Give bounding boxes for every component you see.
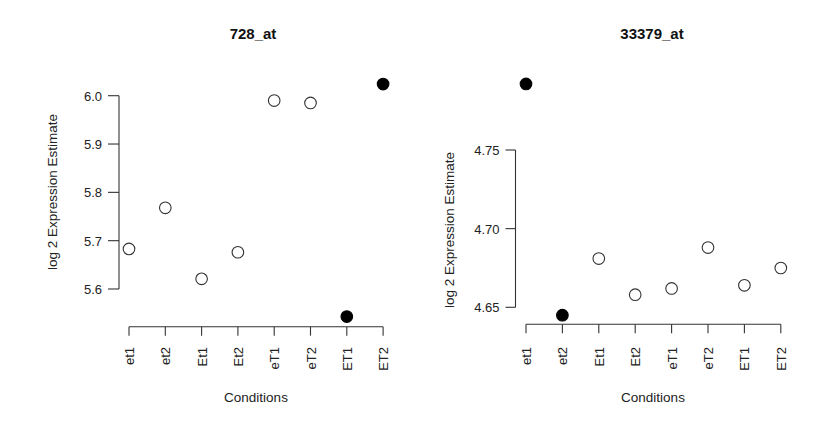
x-axis-label: Conditions xyxy=(224,390,288,405)
filled-point-marker xyxy=(377,78,389,90)
panel-728-at: 728_at log 2 Expression Estimate Conditi… xyxy=(45,25,391,405)
open-point-marker xyxy=(666,283,678,295)
y-tick-label: 4.65 xyxy=(474,300,499,315)
open-point-marker xyxy=(123,243,135,255)
open-point-marker xyxy=(196,273,208,285)
y-tick-label: 5.9 xyxy=(84,137,102,152)
open-point-marker xyxy=(629,289,641,301)
x-tick-label: Et1 xyxy=(195,347,210,367)
filled-point-marker xyxy=(341,311,353,323)
x-axis: et1et2Et1Et2eT1eT2ET1ET2 xyxy=(122,327,391,371)
x-tick-label: ET1 xyxy=(737,347,752,371)
open-point-marker xyxy=(305,97,317,109)
y-axis-label: log 2 Expression Estimate xyxy=(45,114,60,270)
x-tick-label: et2 xyxy=(158,347,173,365)
y-axis-label: log 2 Expression Estimate xyxy=(442,152,457,308)
y-tick-label: 6.0 xyxy=(84,89,102,104)
open-point-marker xyxy=(702,242,714,254)
panel-33379-at: 33379_at log 2 Expression Estimate Condi… xyxy=(442,25,789,405)
x-tick-label: et2 xyxy=(555,347,570,365)
chart-title: 728_at xyxy=(230,25,277,42)
x-tick-label: ET2 xyxy=(376,347,391,371)
x-tick-label: et1 xyxy=(519,347,534,365)
y-axis: 5.65.75.85.96.0 xyxy=(84,89,119,297)
filled-point-marker xyxy=(557,309,569,321)
open-point-marker xyxy=(775,262,787,274)
filled-point-marker xyxy=(520,78,532,90)
x-tick-label: ET1 xyxy=(340,347,355,371)
open-point-marker xyxy=(739,279,751,291)
chart-title: 33379_at xyxy=(620,25,683,42)
x-axis: et1et2Et1Et2eT1eT2ET1ET2 xyxy=(519,324,789,371)
data-points xyxy=(123,78,389,322)
x-tick-label: Et1 xyxy=(592,347,607,367)
open-point-marker xyxy=(232,246,244,258)
x-tick-label: eT1 xyxy=(665,347,680,369)
open-point-marker xyxy=(593,253,605,265)
chart-canvas: 728_at log 2 Expression Estimate Conditi… xyxy=(0,0,822,428)
data-points xyxy=(520,78,786,321)
x-tick-label: eT1 xyxy=(267,347,282,369)
open-point-marker xyxy=(160,202,172,214)
x-tick-label: eT2 xyxy=(304,347,319,369)
x-tick-label: et1 xyxy=(122,347,137,365)
y-axis: 4.654.704.75 xyxy=(474,143,515,315)
x-tick-label: ET2 xyxy=(774,347,789,371)
y-tick-label: 5.8 xyxy=(84,185,102,200)
open-point-marker xyxy=(268,95,280,107)
y-tick-label: 4.75 xyxy=(474,143,499,158)
x-tick-label: Et2 xyxy=(231,347,246,367)
x-tick-label: eT2 xyxy=(701,347,716,369)
x-axis-label: Conditions xyxy=(621,390,685,405)
y-tick-label: 5.6 xyxy=(84,282,102,297)
chart-figure: 728_at log 2 Expression Estimate Conditi… xyxy=(0,0,822,428)
y-tick-label: 5.7 xyxy=(84,234,102,249)
y-tick-label: 4.70 xyxy=(474,222,499,237)
x-tick-label: Et2 xyxy=(628,347,643,367)
